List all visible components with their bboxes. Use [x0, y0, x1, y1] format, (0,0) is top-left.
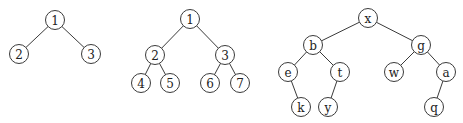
tree-node-7: 7 — [231, 74, 250, 93]
tree-node-4: 4 — [132, 74, 151, 93]
tree-node-w: w — [385, 63, 404, 82]
node-label: t — [338, 66, 343, 80]
tree-node-g: g — [412, 36, 431, 55]
tree-node-q: q — [425, 98, 444, 117]
node-label: 4 — [137, 77, 145, 91]
node-label: 3 — [221, 49, 229, 63]
node-label: a — [442, 66, 449, 80]
tree-node-5: 5 — [161, 74, 180, 93]
tree-node-6: 6 — [201, 74, 220, 93]
tree-node-k: k — [292, 98, 311, 117]
tree-node-2: 2 — [10, 45, 29, 64]
node-label: 1 — [51, 14, 59, 28]
tree-node-1: 1 — [181, 10, 200, 29]
node-label: y — [324, 101, 332, 115]
node-label: k — [297, 101, 305, 115]
node-label: 3 — [87, 48, 95, 62]
node-label: 2 — [15, 48, 23, 62]
tree-node-y: y — [319, 98, 338, 117]
node-label: e — [284, 66, 291, 80]
tree-node-x: x — [359, 9, 378, 28]
edges-layer — [19, 18, 446, 107]
node-label: q — [430, 101, 438, 115]
tree-node-e: e — [279, 63, 298, 82]
node-label: 1 — [186, 13, 194, 27]
node-label: 5 — [166, 77, 174, 91]
node-label: g — [417, 39, 425, 53]
nodes-layer: 1231234567xbgetwakyq — [10, 9, 456, 117]
node-label: 6 — [206, 77, 214, 91]
node-label: b — [309, 39, 317, 53]
node-label: 7 — [236, 77, 244, 91]
tree-1: 123 — [10, 11, 101, 64]
tree-node-t: t — [331, 63, 350, 82]
tree-diagrams-canvas: 1231234567xbgetwakyq — [0, 0, 463, 123]
tree-3: xbgetwakyq — [279, 9, 456, 117]
tree-2: 1234567 — [132, 10, 250, 93]
node-label: 2 — [151, 49, 159, 63]
node-label: w — [389, 66, 400, 80]
tree-3-edges — [288, 18, 446, 107]
node-label: x — [365, 12, 372, 26]
tree-node-a: a — [437, 63, 456, 82]
tree-node-b: b — [304, 36, 323, 55]
tree-node-3: 3 — [82, 45, 101, 64]
tree-node-2: 2 — [146, 46, 165, 65]
tree-node-1: 1 — [46, 11, 65, 30]
tree-node-3: 3 — [216, 46, 235, 65]
